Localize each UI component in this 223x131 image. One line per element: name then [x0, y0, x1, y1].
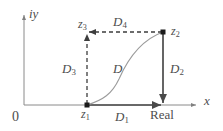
path-label-d1: D1: [115, 110, 129, 125]
path-label-d: D: [113, 62, 122, 75]
path-d-curve: [87, 32, 163, 105]
path-label-d2-base: D: [170, 61, 179, 76]
real-axis-label: Real: [150, 108, 174, 121]
path-label-d4-base: D: [113, 14, 122, 29]
path-label-d2: D2: [170, 62, 184, 77]
point-label-z1-subscript: 1: [86, 113, 90, 122]
path-label-d-base: D: [113, 61, 122, 76]
point-label-z1: z1: [81, 108, 90, 122]
path-label-d3: D3: [62, 62, 76, 77]
path-label-d3-base: D: [62, 61, 71, 76]
point-label-z3: z3: [78, 18, 87, 32]
path-label-d1-base: D: [115, 109, 124, 124]
y-axis-label: iy: [29, 7, 38, 20]
point-label-z2-subscript: 2: [176, 30, 180, 39]
point-label-z3-subscript: 3: [83, 23, 87, 32]
path-label-d1-subscript: 1: [124, 115, 128, 125]
path-label-d4-subscript: 4: [122, 20, 126, 30]
complex-plane-figure: iy x 0 Real z1 z2 z3 D1 D2 D3 D4 D: [0, 0, 223, 131]
x-axis-label: x: [204, 94, 210, 107]
path-label-d3-subscript: 3: [71, 67, 75, 77]
origin-label: 0: [12, 110, 19, 124]
point-marker-z2: [161, 30, 166, 35]
path-label-d2-subscript: 2: [179, 67, 183, 77]
path-label-d4: D4: [113, 15, 127, 30]
point-label-z2: z2: [171, 25, 180, 39]
